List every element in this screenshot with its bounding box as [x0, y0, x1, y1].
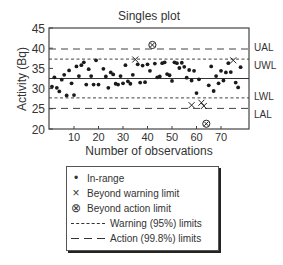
control-limit-lines — [49, 49, 249, 108]
in-range-point — [111, 73, 115, 77]
in-range-point — [72, 93, 76, 97]
legend-entry-action: ⊗ Beyond action limit — [67, 201, 171, 215]
x-tick-label: 30 — [117, 131, 129, 143]
in-range-point — [60, 78, 64, 82]
in-range-point — [180, 61, 184, 65]
legend-box: • In-range × Beyond warning limit ⊗ Beyo… — [66, 166, 219, 251]
lal-label: LAL — [254, 109, 272, 120]
warning-point-x-icon — [230, 57, 236, 63]
legend-entry-in-range: • In-range — [67, 171, 124, 185]
in-range-point — [190, 79, 194, 83]
in-range-point — [207, 83, 211, 87]
data-points — [50, 41, 242, 127]
in-range-point — [192, 69, 196, 73]
in-range-point — [234, 81, 238, 85]
in-range-point — [212, 89, 216, 93]
legend-entry-warning-limits: Warning (95%) limits — [67, 218, 202, 229]
in-range-point — [53, 75, 57, 79]
in-range-point — [92, 83, 96, 87]
in-range-point — [50, 85, 54, 89]
legend-label: Action (99.8%) limits — [110, 233, 201, 244]
in-range-point — [148, 69, 152, 73]
in-range-point — [158, 75, 162, 79]
in-range-point — [170, 79, 174, 83]
y-tick-label: 40 — [32, 42, 46, 56]
action-point-circled-x-icon — [203, 120, 210, 127]
in-range-point — [175, 61, 179, 65]
in-range-point — [195, 91, 199, 95]
legend-label: Beyond warning limit — [87, 188, 179, 199]
warning-point-x-icon — [201, 103, 207, 109]
in-range-point — [222, 79, 226, 83]
in-range-point — [146, 62, 150, 66]
y-tick-label: 25 — [32, 102, 46, 116]
x-marker-icon: × — [70, 186, 82, 200]
singles-plot-chart: Singles plot Activity (Bq) Number of obs… — [0, 0, 283, 165]
in-range-point — [143, 80, 147, 84]
in-range-point — [136, 62, 140, 66]
in-range-point — [75, 64, 79, 68]
limit-labels: UALUWLLWLLAL — [254, 42, 277, 120]
in-range-point — [153, 62, 157, 66]
in-range-point — [214, 74, 218, 78]
in-range-point — [104, 75, 108, 79]
y-tick-label: 35 — [32, 62, 46, 76]
short-dash-line-icon — [71, 223, 105, 224]
in-range-point — [197, 77, 201, 81]
x-tick-label: 40 — [141, 131, 153, 143]
x-tick-label: 50 — [166, 131, 178, 143]
lwl-label: LWL — [254, 91, 274, 102]
in-range-point — [209, 64, 213, 68]
in-range-point — [94, 58, 98, 62]
in-range-point — [55, 86, 59, 90]
in-range-point — [77, 74, 81, 78]
legend-label: In-range — [87, 173, 124, 184]
in-range-point — [239, 65, 243, 69]
in-range-point — [124, 63, 128, 67]
in-range-point — [229, 70, 233, 74]
in-range-point — [67, 69, 71, 73]
in-range-point — [163, 60, 167, 64]
x-tick-label: 10 — [68, 131, 80, 143]
legend-entry-warning: × Beyond warning limit — [67, 186, 179, 200]
legend-label: Beyond action limit — [87, 203, 171, 214]
in-range-point — [97, 83, 101, 87]
in-range-point — [82, 60, 86, 64]
in-range-point — [217, 81, 221, 85]
in-range-point — [219, 69, 223, 73]
in-range-point — [182, 65, 186, 69]
dot-marker-icon: • — [70, 171, 82, 185]
in-range-point — [177, 66, 181, 70]
in-range-point — [121, 81, 125, 85]
uwl-label: UWL — [254, 60, 277, 71]
in-range-point — [119, 74, 123, 78]
in-range-point — [84, 83, 88, 87]
x-axis-label: Number of observations — [85, 144, 212, 158]
in-range-point — [106, 86, 110, 90]
legend-entry-action-limits: Action (99.8%) limits — [67, 233, 201, 244]
in-range-point — [138, 81, 142, 85]
action-point-circled-x-icon — [149, 41, 156, 48]
in-range-point — [187, 68, 191, 72]
long-dash-line-icon — [71, 238, 105, 239]
legend-label: Warning (95%) limits — [110, 218, 202, 229]
x-tick-label: 70 — [215, 131, 227, 143]
ual-label: UAL — [254, 42, 274, 53]
in-range-point — [224, 71, 228, 75]
chart-title: Singles plot — [118, 9, 181, 23]
y-tick-label: 45 — [32, 22, 46, 36]
in-range-point — [57, 90, 61, 94]
in-range-point — [116, 83, 120, 87]
in-range-point — [89, 74, 93, 78]
in-range-point — [236, 85, 240, 89]
y-tick-label: 20 — [32, 123, 46, 137]
in-range-point — [62, 73, 66, 77]
in-range-point — [70, 81, 74, 85]
circled-x-marker-icon: ⊗ — [70, 201, 82, 215]
in-range-point — [168, 73, 172, 77]
in-range-point — [141, 64, 145, 68]
x-tick-label: 60 — [190, 131, 202, 143]
warning-point-x-icon — [198, 100, 204, 106]
in-range-point — [102, 67, 106, 71]
in-range-point — [185, 76, 189, 80]
